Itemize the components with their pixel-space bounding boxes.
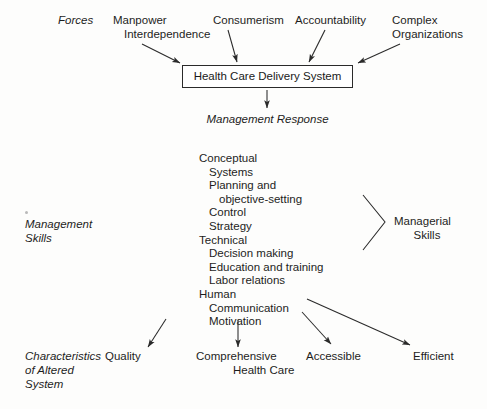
row-label-forces: Forces <box>58 14 93 28</box>
force-complex-organizations-line2: Organizations <box>392 28 463 42</box>
arrow-manpower-to-box <box>142 44 180 63</box>
characteristics-label-line1: Characteristics <box>25 350 101 364</box>
skill-item: Human <box>199 288 236 302</box>
force-manpower-line1: Manpower <box>113 14 167 28</box>
characteristics-label-line2: of Altered <box>25 364 74 378</box>
force-manpower-line2: Interdependence <box>124 28 210 42</box>
management-skills-label-line2: Skills <box>25 232 52 246</box>
outcome-efficient: Efficient <box>413 350 454 364</box>
health-care-delivery-system-box: Health Care Delivery System <box>182 65 353 88</box>
skill-item: Motivation <box>209 315 261 329</box>
arrow-skills-to-accessible <box>302 312 331 344</box>
managerial-skills-label-line1: Managerial <box>394 215 451 229</box>
skill-item: Education and training <box>209 261 323 275</box>
force-complex-organizations-line1: Complex <box>392 14 437 28</box>
force-accountability: Accountability <box>295 14 366 28</box>
skill-item: Labor relations <box>209 274 285 288</box>
arrow-complex-org-to-box <box>358 44 400 63</box>
outcome-comprehensive-line1: Comprehensive <box>196 350 277 364</box>
skill-item: Conceptual <box>199 152 257 166</box>
outcome-quality: Quality <box>105 350 141 364</box>
skill-item: Planning and <box>209 179 276 193</box>
managerial-skills-bracket-icon <box>363 195 385 250</box>
diagram-canvas: Forces Manpower Interdependence Consumer… <box>0 0 487 409</box>
arrow-skills-to-efficient <box>307 299 410 345</box>
characteristics-label-line3: System <box>25 378 63 392</box>
skill-item: Communication <box>209 302 289 316</box>
arrow-accountability-to-box <box>309 30 325 62</box>
outcome-accessible: Accessible <box>306 350 361 364</box>
management-skills-label-line1: Management <box>25 218 92 232</box>
skill-item: Control <box>209 206 246 220</box>
scan-speck <box>25 211 28 214</box>
skill-item: objective-setting <box>219 193 302 207</box>
health-care-delivery-system-label: Health Care Delivery System <box>183 70 352 82</box>
force-consumerism: Consumerism <box>213 14 284 28</box>
skill-item: Decision making <box>209 247 293 261</box>
arrow-skills-to-quality <box>148 319 166 347</box>
skill-item: Strategy <box>209 220 252 234</box>
arrow-consumerism-to-box <box>228 30 237 62</box>
skill-item: Technical <box>199 234 247 248</box>
management-response-label: Management Response <box>182 113 353 127</box>
outcome-comprehensive-line2: Health Care <box>233 364 294 378</box>
managerial-skills-label-line2: Skills <box>394 229 460 243</box>
skill-item: Systems <box>209 166 253 180</box>
